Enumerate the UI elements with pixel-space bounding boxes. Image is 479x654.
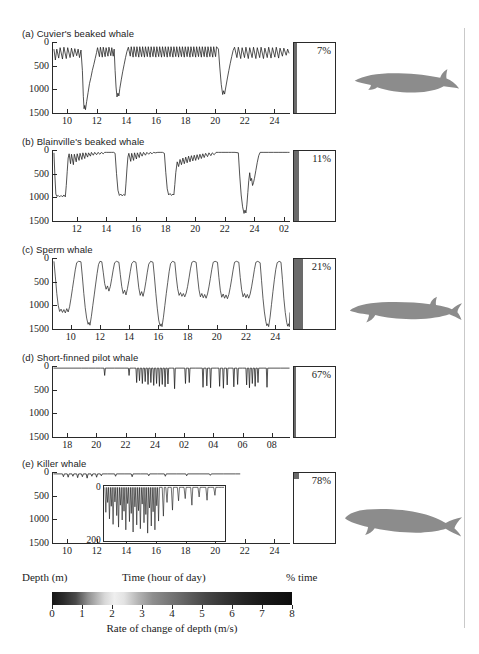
panel-e-xlabel-18: 18 <box>181 546 191 556</box>
panel-c-xlabel-20: 20 <box>212 332 222 342</box>
panel-d-pct-box: 67% <box>293 366 336 438</box>
panel-d-ylabel-0: 0 <box>44 361 49 371</box>
panel-a: (a) Cuvier's beaked whale 0 500 1000 150… <box>0 28 479 128</box>
whale-dive-profile-figure: (a) Cuvier's beaked whale 0 500 1000 150… <box>0 0 479 654</box>
panel-b-xlabel-14: 14 <box>101 224 111 234</box>
panel-c-ylabel-1500: 1500 <box>29 324 49 334</box>
legend-time-label: Time (hour of day) <box>122 572 206 583</box>
panel-a-pct-box: 7% <box>293 42 336 114</box>
panel-c-dive-trace <box>53 258 290 329</box>
panel-e-xlabel-24: 24 <box>269 546 279 556</box>
panel-d-xlabel-24: 24 <box>150 440 160 450</box>
panel-d-title: (d) Short-finned pilot whale <box>22 352 138 363</box>
panel-a-xlabel-22: 22 <box>240 116 250 126</box>
panel-b-ylabel-500: 500 <box>34 169 49 179</box>
panel-a-xlabel-14: 14 <box>121 116 131 126</box>
panel-b-dive-trace <box>53 150 290 221</box>
panel-a-xlabel-10: 10 <box>62 116 72 126</box>
panel-e-title: (e) Killer whale <box>22 458 86 469</box>
panel-d-xlabel-04: 04 <box>208 440 218 450</box>
panel-e-pct-bar <box>294 473 299 479</box>
panel-e-plot: 0 500 1000 1500 10 12 14 16 18 20 22 24 <box>52 472 290 544</box>
panel-e-xlabel-12: 12 <box>92 546 102 556</box>
panel-b-xlabel-24: 24 <box>249 224 259 234</box>
panel-c-xlabel-22: 22 <box>241 332 251 342</box>
panel-e-xlabel-10: 10 <box>62 546 72 556</box>
panel-b-pct-label: 11% <box>312 154 331 165</box>
panel-c-xlabel-16: 16 <box>153 332 163 342</box>
colorbar-label-2: 2 <box>109 608 115 619</box>
panel-c-xlabel-18: 18 <box>183 332 193 342</box>
panel-d-pct-label: 67% <box>312 370 331 381</box>
panel-d-ylabel-500: 500 <box>34 385 49 395</box>
panel-d: (d) Short-finned pilot whale 0 500 1000 … <box>0 352 479 452</box>
panel-b-ylabel-1000: 1000 <box>29 192 49 202</box>
panel-b-ylabel-1500: 1500 <box>29 216 49 226</box>
colorbar-title: Rate of change of depth (m/s) <box>52 622 292 634</box>
panel-e-ylabel-0: 0 <box>44 467 49 477</box>
cuviers-beaked-whale-silhouette <box>352 66 460 102</box>
panel-c-title: (c) Sperm whale <box>22 244 93 255</box>
panel-b-pct-box: 11% <box>293 150 336 222</box>
panel-d-xlabel-08: 08 <box>267 440 277 450</box>
panel-c-pct-bar <box>294 259 303 329</box>
figure-legend: Depth (m) Time (hour of day) % time 0 1 … <box>0 572 479 642</box>
panel-e-inset-ylabel-0: 0 <box>96 483 101 493</box>
panel-b-xlabel-22: 22 <box>220 224 230 234</box>
colorbar-label-7: 7 <box>259 608 265 619</box>
panel-b-xlabel-18: 18 <box>161 224 171 234</box>
colorbar-label-6: 6 <box>229 608 235 619</box>
colorbar-label-8: 8 <box>289 608 295 619</box>
legend-depth-label: Depth (m) <box>22 572 68 583</box>
panel-b: (b) Blainville's beaked whale 0 500 1000… <box>0 136 479 236</box>
panel-b-plot: 0 500 1000 1500 12 14 16 18 20 22 24 02 <box>52 150 290 222</box>
panel-c-pct-box: 21% <box>293 258 336 330</box>
panel-e-inset-trace <box>104 486 225 541</box>
panel-e: (e) Killer whale 0 500 1000 1500 10 12 1… <box>0 458 479 563</box>
colorbar-label-1: 1 <box>79 608 85 619</box>
panel-a-xlabel-18: 18 <box>181 116 191 126</box>
panel-e-xlabel-14: 14 <box>121 546 131 556</box>
colorbar-label-5: 5 <box>199 608 205 619</box>
panel-c-ylabel-1000: 1000 <box>29 300 49 310</box>
panel-c-ylabel-500: 500 <box>34 277 49 287</box>
panel-d-xlabel-06: 06 <box>238 440 248 450</box>
panel-c: (c) Sperm whale 0 500 1000 1500 10 12 14… <box>0 244 479 344</box>
panel-c-xlabel-14: 14 <box>124 332 134 342</box>
colorbar-label-4: 4 <box>169 608 175 619</box>
panel-e-xlabel-20: 20 <box>210 546 220 556</box>
rate-of-change-colorbar <box>52 592 292 605</box>
legend-pct-label: % time <box>286 572 317 583</box>
panel-a-xlabel-12: 12 <box>92 116 102 126</box>
colorbar-label-0: 0 <box>49 608 55 619</box>
panel-d-ylabel-1500: 1500 <box>29 432 49 442</box>
colorbar-label-3: 3 <box>139 608 145 619</box>
panel-d-xlabel-20: 20 <box>91 440 101 450</box>
panel-c-xlabel-12: 12 <box>95 332 105 342</box>
panel-d-xlabel-18: 18 <box>62 440 72 450</box>
panel-b-ylabel-0: 0 <box>44 145 49 155</box>
panel-c-xlabel-24: 24 <box>270 332 280 342</box>
panel-e-pct-label: 78% <box>312 476 331 487</box>
panel-d-pct-bar <box>294 367 296 437</box>
panel-e-inset-ylabel-200: 200 <box>87 536 101 546</box>
panel-a-ylabel-500: 500 <box>34 61 49 71</box>
panel-c-plot: 0 500 1000 1500 10 12 14 16 18 20 22 24 <box>52 258 290 330</box>
panel-a-dive-trace <box>53 42 290 113</box>
panel-a-ylabel-1000: 1000 <box>29 84 49 94</box>
panel-b-xlabel-02: 02 <box>279 224 289 234</box>
panel-e-inset: 0 200 <box>103 485 226 542</box>
panel-a-title: (a) Cuvier's beaked whale <box>22 28 134 39</box>
panel-a-xlabel-20: 20 <box>210 116 220 126</box>
panel-d-ylabel-1000: 1000 <box>29 408 49 418</box>
panel-a-pct-bar <box>294 43 297 113</box>
panel-b-title: (b) Blainville's beaked whale <box>22 136 144 147</box>
panel-e-ylabel-500: 500 <box>34 491 49 501</box>
panel-b-pct-bar <box>294 151 299 221</box>
panel-d-xlabel-22: 22 <box>121 440 131 450</box>
panel-a-pct-label: 7% <box>317 46 331 57</box>
panel-d-dive-trace <box>53 366 290 437</box>
panel-c-ylabel-0: 0 <box>44 253 49 263</box>
panel-a-plot: 0 500 1000 1500 10 12 14 16 18 20 22 24 <box>52 42 290 114</box>
panel-b-xlabel-12: 12 <box>72 224 82 234</box>
